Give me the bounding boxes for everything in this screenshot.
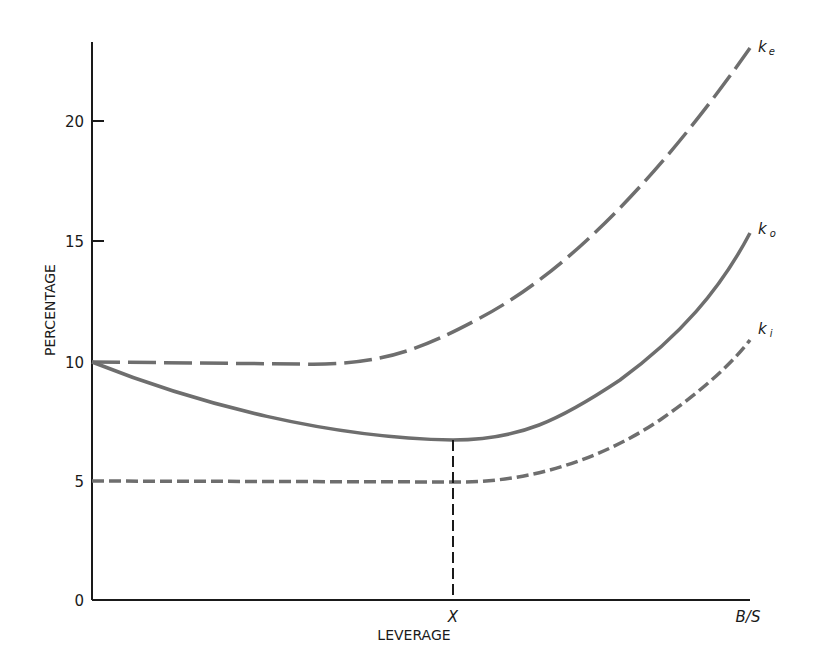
y-tick-label-5: 5	[74, 473, 84, 491]
y-tick-label-20: 20	[65, 113, 84, 131]
x-tick-label-end: B/S	[736, 608, 761, 626]
x-axis-title: LEVERAGE	[377, 627, 450, 643]
label-ki: ki	[758, 320, 773, 339]
label-ke-main: k	[758, 38, 768, 56]
chart-canvas: 0 5 10 15 20 PERCENTAGE ke ko ki X B/S L…	[0, 0, 816, 671]
label-ki-sub: i	[770, 328, 773, 339]
y-tick-label-10: 10	[65, 354, 84, 372]
label-ko: ko	[758, 220, 776, 239]
label-ko-main: k	[758, 220, 768, 238]
y-ticks	[92, 121, 104, 481]
y-tick-label-0: 0	[74, 592, 84, 610]
label-ko-sub: o	[770, 228, 776, 239]
label-ki-main: k	[758, 320, 768, 338]
label-ke: ke	[758, 38, 775, 57]
y-axis-title: PERCENTAGE	[42, 264, 58, 356]
y-tick-label-15: 15	[65, 233, 84, 251]
curve-ko	[92, 233, 750, 440]
label-ke-sub: e	[769, 46, 775, 57]
x-tick-label-optimal: X	[447, 608, 459, 626]
curve-ke	[92, 48, 750, 364]
